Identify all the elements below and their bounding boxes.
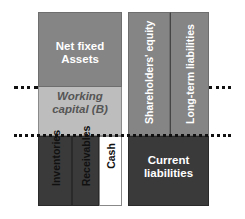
inventories-label: Inventories [50, 128, 62, 188]
working-capital-line2: capital (B) [39, 103, 121, 116]
working-capital-line1: Working [39, 90, 121, 103]
cash-label: Cash [105, 136, 117, 176]
net-fixed-assets-line1: Net fixed [39, 40, 121, 53]
current-liabilities-label: Current liabilities [129, 154, 208, 180]
current-liabilities-line2: liabilities [129, 167, 208, 180]
current-liabilities-block: Current liabilities [128, 136, 209, 206]
net-fixed-assets-line2: Assets [39, 53, 121, 66]
current-liabilities-line1: Current [129, 154, 208, 167]
net-fixed-assets-label: Net fixed Assets [39, 40, 121, 66]
shareholders-equity-label: Shareholders' equity [143, 24, 155, 124]
long-term-liabilities-label: Long-term liabilities [184, 24, 196, 124]
working-capital-label: Working capital (B) [39, 90, 121, 116]
upper-dotted-line-right [209, 86, 231, 89]
upper-dotted-line-left [14, 86, 38, 89]
net-fixed-assets-block: Net fixed Assets [38, 12, 122, 87]
lower-dotted-line [14, 134, 231, 137]
